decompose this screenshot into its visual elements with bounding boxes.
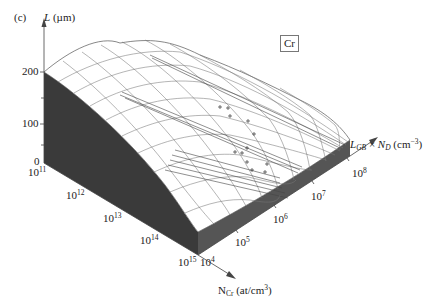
y-tick: 106 (273, 213, 288, 225)
x-tick: 1013 (103, 212, 122, 224)
z-tick-200: 200 (22, 66, 39, 77)
x-tick: 1011 (28, 166, 46, 178)
z-axis-symbol: L (44, 11, 50, 23)
y-tick: 107 (311, 190, 326, 202)
legend-cr: Cr (280, 35, 299, 52)
surface-plot (0, 0, 437, 305)
x-axis-label: NCr (at/cm3) (218, 284, 272, 298)
x-tick: 1015 (178, 256, 197, 268)
y-tick: 105 (235, 236, 250, 248)
x-tick: 1012 (66, 189, 85, 201)
y-axis-label: LGB × ND (cm−3) (350, 138, 422, 152)
z-axis-unit: (µm) (53, 11, 75, 23)
z-tick-100: 100 (22, 118, 39, 129)
panel-label: (c) (14, 12, 26, 23)
z-axis-label: L (µm) (44, 12, 75, 23)
x-tick: 1014 (140, 234, 159, 246)
y-tick: 108 (352, 167, 367, 179)
y-tick: 104 (200, 256, 215, 268)
